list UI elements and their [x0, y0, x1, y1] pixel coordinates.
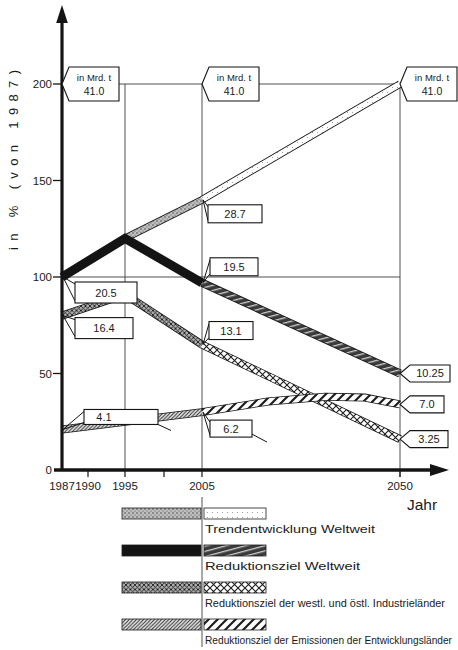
value-tag-label: 13.1	[220, 325, 241, 337]
series-dev-post	[202, 397, 400, 412]
value-tag-label: 28.7	[224, 208, 245, 220]
tag-pointer	[203, 412, 210, 435]
value-tag-label: 16.4	[93, 322, 114, 334]
legend-swatch-pre-trend	[122, 508, 201, 519]
legend-label-ind: Reduktionsziel der westl. und östl. Indu…	[205, 597, 446, 609]
value-tag-label: 6.2	[223, 423, 238, 435]
legend-label-dev: Reduktionsziel der Emissionen der Entwic…	[205, 634, 452, 646]
y-tick-label-0: 0	[46, 464, 52, 476]
legend-swatch-pre-ind	[122, 582, 201, 593]
legend-label-target: Reduktionsziel Weltweit	[205, 560, 360, 572]
unit-flag-line1: in Mrd. t	[77, 72, 112, 83]
tag-pointer	[203, 260, 210, 283]
tag-fold-line	[158, 424, 171, 430]
value-flag-label: 3.25	[418, 433, 439, 445]
legend-swatch-post-trend	[204, 508, 266, 519]
unit-flag-line2: 41.0	[84, 85, 105, 97]
y-tick-label-150: 150	[33, 175, 52, 187]
scanned-emissions-chart-page: 05010015020019871990199520052050in % (vo…	[0, 0, 458, 650]
x-tick-label-2005: 2005	[189, 480, 215, 492]
legend-swatch-post-dev	[204, 619, 266, 630]
x-tick-label-1995: 1995	[112, 480, 138, 492]
x-tick-label-1987: 1987	[49, 480, 75, 492]
legend-label-trend: Trendentwicklung Weltweit	[205, 523, 375, 535]
legend-swatch-post-target	[204, 545, 266, 556]
value-flag-label: 7.0	[419, 398, 434, 410]
legend-swatch-pre-target	[122, 545, 201, 556]
annotation-flags: in Mrd. t41.0in Mrd. t41.0in Mrd. t41.02…	[62, 67, 457, 448]
y-tick-label-100: 100	[33, 271, 52, 283]
x-axis-arrowhead	[430, 464, 449, 476]
y-axis-title: in % (von 1987)	[6, 70, 21, 250]
y-tick-label-200: 200	[33, 78, 52, 90]
unit-flag-line1: in Mrd. t	[415, 72, 450, 83]
y-tick-label-50: 50	[39, 368, 52, 380]
unit-flag-line2: 41.0	[422, 85, 443, 97]
value-tag-label: 4.1	[96, 411, 111, 423]
unit-flag-line2: 41.0	[224, 85, 245, 97]
legend: Trendentwicklung WeltweitReduktionsziel …	[122, 508, 452, 646]
series-target-pre	[62, 238, 202, 282]
x-axis-title: Jahr	[407, 496, 437, 513]
tag-leader-line	[252, 434, 267, 442]
x-tick-label-1990: 1990	[75, 480, 101, 492]
legend-swatch-pre-dev	[122, 619, 201, 630]
x-tick-label-2050: 2050	[387, 480, 413, 492]
y-axis-arrowhead	[56, 5, 68, 23]
value-tag-label: 19.5	[223, 261, 244, 273]
legend-swatch-post-ind	[204, 582, 266, 593]
co2-emissions-trend-chart: 05010015020019871990199520052050in % (vo…	[0, 0, 458, 650]
value-flag-label: 10.25	[416, 367, 444, 379]
value-tag-4.1	[84, 409, 158, 424]
unit-flag-line1: in Mrd. t	[217, 72, 252, 83]
value-tag-label: 20.5	[95, 287, 116, 299]
